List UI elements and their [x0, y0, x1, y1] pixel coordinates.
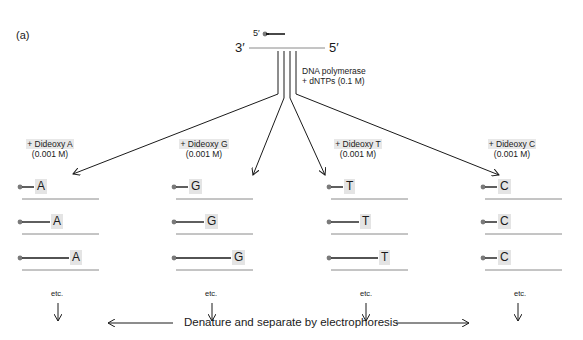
dntp-label: + dNTPs (0.1 M) — [302, 76, 366, 86]
terminator-base-T: T — [379, 250, 390, 265]
dideoxy-label: + Dideoxy A — [26, 139, 74, 149]
primer-dot — [327, 185, 332, 190]
reaction-paths — [73, 51, 499, 175]
fragment-groups — [18, 185, 562, 270]
concentration-label: (0.001 M) — [20, 149, 80, 159]
primer-dot — [327, 256, 332, 261]
polymerase-label: DNA polymerase — [302, 66, 366, 76]
primer-dot — [481, 256, 486, 261]
condition-label-T: + Dideoxy T(0.001 M) — [328, 139, 388, 159]
etc-label-T: etc. — [360, 289, 372, 298]
concentration-label: (0.001 M) — [174, 149, 234, 159]
terminator-base-T: T — [360, 214, 371, 229]
diagram-canvas — [0, 0, 583, 340]
primer-dot — [18, 256, 23, 261]
primer-dot — [18, 220, 23, 225]
panel-label: (a) — [16, 29, 29, 41]
terminator-base-C: C — [498, 214, 511, 229]
condition-label-G: + Dideoxy G(0.001 M) — [174, 139, 234, 159]
terminator-base-G: G — [232, 250, 245, 265]
terminator-base-G: G — [205, 214, 218, 229]
primer-dot — [327, 220, 332, 225]
dideoxy-label: + Dideoxy T — [334, 139, 381, 149]
primer-dot — [481, 185, 486, 190]
etc-label-A: etc. — [51, 289, 63, 298]
bottom-step-label: Denature and separate by electrophoresis — [184, 316, 398, 328]
template-3prime-label: 3′ — [235, 40, 245, 55]
primer-5prime-label: 5′ — [253, 28, 260, 38]
terminator-base-C: C — [498, 250, 511, 265]
terminator-base-T: T — [344, 179, 355, 194]
condition-label-A: + Dideoxy A(0.001 M) — [20, 139, 80, 159]
etc-label-G: etc. — [205, 289, 217, 298]
path-to-G — [253, 51, 284, 175]
condition-label-C: + Dideoxy C(0.001 M) — [482, 139, 542, 159]
terminator-base-G: G — [189, 179, 202, 194]
primer-dot — [18, 185, 23, 190]
reaction-mix: DNA polymerase + dNTPs (0.1 M) — [302, 66, 366, 86]
terminator-base-A: A — [70, 250, 82, 265]
terminator-base-C: C — [498, 179, 511, 194]
dideoxy-label: + Dideoxy G — [179, 139, 228, 149]
primer-dot — [481, 220, 486, 225]
primer-dot — [172, 256, 177, 261]
primer-dot — [172, 220, 177, 225]
etc-label-C: etc. — [514, 289, 526, 298]
concentration-label: (0.001 M) — [482, 149, 542, 159]
concentration-label: (0.001 M) — [328, 149, 388, 159]
primer-dot — [172, 185, 177, 190]
terminator-base-A: A — [51, 214, 63, 229]
dideoxy-label: + Dideoxy C — [488, 139, 537, 149]
template-5prime-label: 5′ — [329, 40, 339, 55]
terminator-base-A: A — [35, 179, 47, 194]
